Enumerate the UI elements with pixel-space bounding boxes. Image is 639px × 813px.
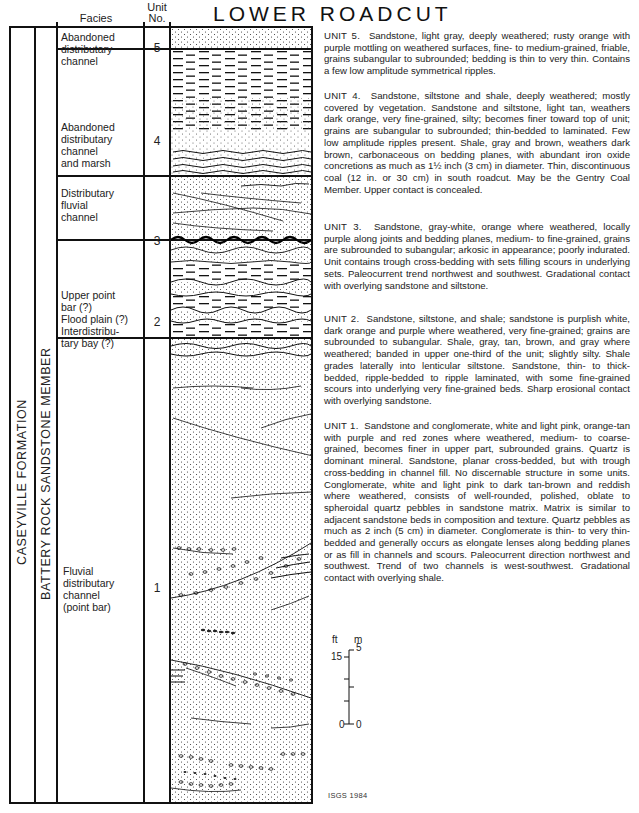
table-bottom-border (9, 802, 313, 804)
unit-number-1: 1 (144, 581, 170, 595)
member-col-left-border (34, 26, 36, 804)
unit-4-text: Sandstone, siltstone and shale, deeply w… (324, 90, 630, 195)
formation-label: CASEYVILLE FORMATION (15, 399, 29, 565)
unit-number-5: 5 (144, 41, 170, 55)
facies-line: Fluvial (63, 565, 145, 577)
facies-unit-5: Abandoned distributary channel (61, 31, 143, 67)
facies-line: distributary (63, 577, 145, 589)
lithology-col-right-border (311, 26, 313, 804)
unit-number-2: 2 (144, 315, 170, 329)
facies-line: (point bar) (63, 601, 145, 613)
facies-line: Distributary (61, 187, 143, 199)
unit-5-text: Sandstone, light gray, deeply weathered;… (324, 30, 630, 76)
facies-line: and marsh (61, 157, 143, 169)
unit-2-description: UNIT 2. Sandstone, siltstone, and shale;… (324, 313, 630, 407)
unit-1-text: Sandstone and conglomerate, white and li… (324, 420, 630, 583)
facies-unit-1: Fluvial distributary channel (point bar) (63, 565, 145, 613)
facies-line: tary bay (?) (61, 337, 143, 349)
facies-line: bar (?) (61, 301, 143, 313)
unit-3-lead: UNIT 3. (324, 221, 362, 232)
facies-line: Flood plain (?) (61, 313, 143, 325)
unit-5-lead: UNIT 5. (324, 30, 360, 41)
unit-3-text: Sandstone, gray-white, orange where weat… (324, 221, 630, 291)
lithology-unit-4 (171, 50, 311, 175)
facies-line: distributary (61, 133, 143, 145)
facies-col-left-border (56, 22, 58, 804)
unit-1-lead: UNIT 1. (324, 420, 359, 431)
credit-label: ISGS 1984 (328, 791, 367, 800)
member-label: BATTERY ROCK SANDSTONE MEMBER (39, 347, 53, 600)
facies-unit-4: Abandoned distributary channel and marsh (61, 121, 143, 169)
lithology-unit-5 (171, 28, 311, 48)
unit-2-text: Sandstone, siltstone, and shale; sandsto… (324, 313, 630, 406)
facies-line: Interdistribu- (61, 325, 143, 337)
facies-line: channel (61, 145, 143, 157)
facies-line: distributary (61, 43, 143, 55)
facies-line: fluvial (61, 199, 143, 211)
facies-unit-2: Upper point bar (?) Flood plain (?) Inte… (61, 289, 143, 349)
facies-line: channel (63, 589, 145, 601)
formation-col-left-border (9, 26, 11, 804)
facies-line: Abandoned (61, 121, 143, 133)
unit-header-line2: No. (142, 13, 172, 24)
unit-3-description: UNIT 3. Sandstone, gray-white, orange wh… (324, 221, 630, 291)
diagram-title: LOWER ROADCUT (213, 2, 452, 26)
unit-5-description: UNIT 5. Sandstone, light gray, deeply we… (324, 30, 630, 77)
facies-line: channel (61, 55, 143, 67)
unit-4-description: UNIT 4. Sandstone, siltstone and shale, … (324, 90, 630, 195)
lithology-unit-3 (171, 177, 311, 243)
lithology-unit-2 (171, 242, 311, 337)
facies-header: Facies (66, 13, 126, 24)
facies-line: channel (61, 211, 143, 223)
lithology-unit-1 (171, 339, 311, 802)
unit-2-lead: UNIT 2. (324, 313, 359, 324)
unit-4-lead: UNIT 4. (324, 90, 361, 101)
scale-ft-label: ft (332, 634, 338, 645)
unit-1-description: UNIT 1. Sandstone and conglomerate, whit… (324, 420, 630, 584)
lithology-column (171, 28, 311, 802)
unit-number-3: 3 (144, 234, 170, 248)
facies-line: Abandoned (61, 31, 143, 43)
facies-line: Upper point (61, 289, 143, 301)
unit-number-4: 4 (144, 134, 170, 148)
facies-unit-3: Distributary fluvial channel (61, 187, 143, 223)
scale-bar-ruler (340, 645, 360, 730)
